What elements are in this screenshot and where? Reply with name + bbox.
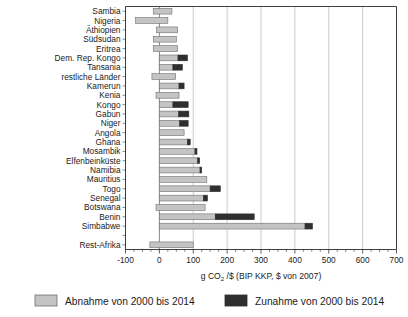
bar-decrease [152, 74, 176, 80]
bar-increase [179, 83, 184, 89]
legend-item: Zunahme von 2000 bis 2014 [225, 295, 384, 307]
x-tick-label: -100 [117, 255, 134, 265]
emissions-intensity-bar-chart: -1000100200300400500600700 SambiaNigeria… [0, 0, 408, 317]
bar-decrease [159, 195, 203, 201]
x-tick-label: 100 [186, 255, 200, 265]
bar-decrease [153, 36, 176, 42]
bar-decrease [153, 46, 177, 52]
chart-container: -1000100200300400500600700 SambiaNigeria… [0, 0, 408, 317]
x-tick-label: 600 [356, 255, 370, 265]
bar-decrease [159, 130, 184, 136]
bar-increase [187, 139, 190, 145]
legend-item: Abnahme von 2000 bis 2014 [35, 295, 195, 307]
bar-decrease [159, 158, 197, 164]
x-axis-title-text: g CO2 /$ (BIP KKP, $ von 2007) [201, 271, 322, 282]
legend-label: Abnahme von 2000 bis 2014 [65, 296, 195, 307]
bar-increase [195, 148, 197, 154]
bar-decrease [159, 64, 173, 70]
bar-increase [179, 111, 189, 117]
bar-decrease [159, 139, 187, 145]
x-tick-labels: -1000100200300400500600700 [117, 255, 404, 265]
bar-decrease [159, 83, 179, 89]
bar-decrease [159, 223, 305, 229]
x-tick-label: 300 [254, 255, 268, 265]
bar-increase [173, 102, 188, 108]
legend-label: Zunahme von 2000 bis 2014 [255, 296, 384, 307]
bar-increase [178, 55, 187, 61]
bar-decrease [157, 27, 178, 33]
bar-increase [198, 158, 200, 164]
bar-series-group [136, 8, 313, 247]
category-labels: SambiaNigeriaÄthiopienSüdsudanEritreaDem… [55, 6, 122, 250]
x-tick-label: 700 [390, 255, 404, 265]
bar-increase [180, 120, 188, 126]
bar-decrease [159, 214, 215, 220]
bar-decrease [159, 186, 210, 192]
legend-swatch-increase [225, 295, 247, 306]
bar-decrease [159, 102, 173, 108]
x-axis-title: g CO2 /$ (BIP KKP, $ von 2007) [201, 271, 322, 282]
bar-decrease [159, 120, 179, 126]
x-tick-label: 0 [157, 255, 162, 265]
bar-decrease [153, 8, 172, 14]
x-tick-label: 400 [288, 255, 302, 265]
bar-increase [203, 195, 207, 201]
bar-increase [305, 223, 312, 229]
chart-legend: Abnahme von 2000 bis 2014Zunahme von 200… [35, 295, 384, 307]
bar-decrease [150, 242, 193, 248]
bar-decrease [159, 148, 195, 154]
bar-increase [215, 214, 254, 220]
bar-decrease [136, 18, 168, 24]
bar-decrease [159, 55, 178, 61]
x-tick-label: 500 [322, 255, 336, 265]
bar-decrease [159, 177, 206, 183]
legend-swatch-decrease [35, 295, 57, 306]
gridlines [126, 7, 397, 250]
x-tick-label: 200 [220, 255, 234, 265]
bar-increase [173, 64, 182, 70]
bar-decrease [156, 205, 205, 211]
bar-increase [200, 167, 202, 173]
category-label: Simbabwe [82, 221, 121, 231]
bar-decrease [159, 111, 178, 117]
category-label: Rest-Afrika [79, 240, 120, 250]
bar-increase [210, 186, 220, 192]
bar-decrease [156, 92, 179, 98]
bar-decrease [159, 167, 200, 173]
